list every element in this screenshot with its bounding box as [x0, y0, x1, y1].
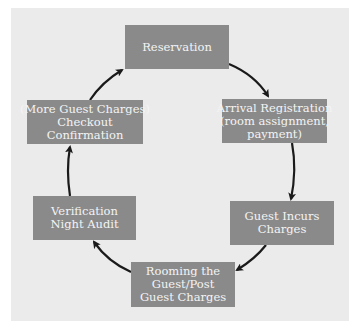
node-label: payment)	[247, 128, 302, 141]
node-label: Reservation	[142, 41, 212, 54]
node-label: Guest Charges	[140, 291, 226, 304]
arrow-guest-incurs-to-rooming	[237, 245, 266, 270]
node-arrival-registration: Arrival Registration (room assignment, p…	[222, 99, 327, 143]
node-checkout-confirmation: (More Guest Charges) Checkout Confirmati…	[27, 100, 143, 144]
node-verification-night-audit: Verification Night Audit	[33, 196, 136, 240]
arrow-checkout-to-reservation	[90, 70, 122, 100]
node-reservation: Reservation	[125, 25, 229, 69]
node-rooming-guest: Rooming the Guest/Post Guest Charges	[131, 262, 235, 307]
node-label: Checkout	[57, 116, 112, 129]
node-label: Charges	[258, 223, 307, 236]
arrow-verification-to-checkout	[68, 147, 70, 196]
arrow-rooming-to-verification	[94, 242, 131, 272]
node-label: (More Guest Charges)	[20, 103, 150, 116]
node-guest-incurs-charges: Guest Incurs Charges	[230, 201, 334, 245]
node-label: Confirmation	[47, 129, 124, 142]
arrow-arrival-to-guest-incurs	[291, 143, 294, 199]
arrow-reservation-to-arrival	[229, 64, 268, 96]
node-label: Night Audit	[50, 218, 118, 231]
node-label: (room assignment,	[220, 115, 329, 128]
node-label: Arrival Registration	[217, 102, 333, 115]
